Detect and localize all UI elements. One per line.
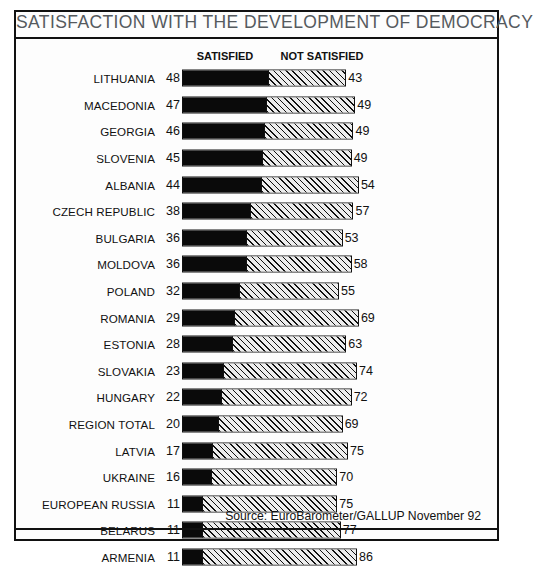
category-label: REGION TOTAL	[10, 418, 155, 431]
not-satisfied-value: 77	[343, 523, 357, 537]
chart-row: SLOVENIA4549	[0, 145, 513, 172]
not-satisfied-value: 63	[348, 337, 362, 351]
chart-row: ESTONIA2863	[0, 331, 513, 358]
bar-segment-satisfied	[183, 443, 213, 458]
page-title: SATISFACTION WITH THE DEVELOPMENT OF DEM…	[16, 12, 497, 33]
bar-segment-not-satisfied	[251, 204, 353, 219]
bar-segment-not-satisfied	[224, 363, 356, 378]
category-label: ARMENIA	[10, 550, 155, 563]
bar-segment-satisfied	[183, 177, 262, 192]
category-label: HUNGARY	[10, 391, 155, 404]
category-label: LATVIA	[10, 444, 155, 457]
chart-row: LATVIA1775	[0, 437, 513, 464]
category-label: GEORGIA	[10, 125, 155, 138]
not-satisfied-value: 54	[361, 178, 375, 192]
satisfied-value: 47	[154, 98, 180, 112]
bar-segment-not-satisfied	[213, 443, 347, 458]
satisfied-value: 17	[154, 444, 180, 458]
stacked-bar	[182, 522, 341, 539]
category-label: CZECH REPUBLIC	[10, 205, 155, 218]
legend-not-satisfied-label: NOT SATISFIED	[268, 50, 376, 62]
stacked-bar	[182, 548, 357, 565]
stacked-bar	[182, 96, 355, 113]
bar-segment-not-satisfied	[235, 310, 358, 325]
bar-segment-not-satisfied	[247, 230, 341, 245]
category-label: ROMANIA	[10, 311, 155, 324]
source-divider	[16, 528, 497, 530]
bar-segment-not-satisfied	[240, 284, 338, 299]
not-satisfied-value: 74	[359, 364, 373, 378]
bar-segment-not-satisfied	[203, 549, 356, 564]
chart-row: BULGARIA3653	[0, 225, 513, 252]
not-satisfied-value: 72	[354, 390, 368, 404]
bar-segment-satisfied	[183, 470, 212, 485]
bar-segment-not-satisfied	[262, 177, 358, 192]
bar-segment-not-satisfied	[265, 124, 352, 139]
not-satisfied-value: 75	[350, 444, 364, 458]
stacked-bar	[182, 416, 343, 433]
satisfied-value: 29	[154, 311, 180, 325]
category-label: ALBANIA	[10, 178, 155, 191]
bar-segment-not-satisfied	[247, 257, 350, 272]
not-satisfied-value: 58	[354, 257, 368, 271]
chart-row: UKRAINE1670	[0, 464, 513, 491]
stacked-bar	[182, 229, 343, 246]
chart-row: MACEDONIA4749	[0, 92, 513, 119]
bar-segment-not-satisfied	[219, 417, 342, 432]
satisfied-value: 36	[154, 257, 180, 271]
not-satisfied-value: 55	[341, 284, 355, 298]
bar-segment-satisfied	[183, 363, 224, 378]
stacked-bar	[182, 150, 352, 167]
stacked-bar	[182, 389, 352, 406]
bar-segment-not-satisfied	[212, 470, 337, 485]
bar-segment-satisfied	[183, 284, 240, 299]
satisfied-value: 38	[154, 204, 180, 218]
bar-segment-satisfied	[183, 417, 219, 432]
chart-row: POLAND3255	[0, 278, 513, 305]
chart-row: HUNGARY2272	[0, 384, 513, 411]
category-label: BELARUS	[10, 524, 155, 537]
bar-segment-satisfied	[183, 97, 267, 112]
satisfied-value: 22	[154, 390, 180, 404]
satisfied-value: 44	[154, 178, 180, 192]
satisfied-value: 45	[154, 151, 180, 165]
not-satisfied-value: 49	[357, 98, 371, 112]
bar-segment-satisfied	[183, 390, 222, 405]
stacked-bar	[182, 309, 359, 326]
category-label: SLOVAKIA	[10, 364, 155, 377]
bar-segment-not-satisfied	[263, 151, 350, 166]
chart-row: ALBANIA4454	[0, 171, 513, 198]
chart-row: SLOVAKIA2374	[0, 358, 513, 385]
satisfied-value: 32	[154, 284, 180, 298]
chart-rows: LITHUANIA4843MACEDONIA4749GEORGIA4649SLO…	[0, 65, 513, 570]
category-label: POLAND	[10, 285, 155, 298]
category-label: LITHUANIA	[10, 72, 155, 85]
satisfied-value: 28	[154, 337, 180, 351]
bar-segment-not-satisfied	[269, 71, 346, 86]
stacked-bar	[182, 176, 359, 193]
category-label: MOLDOVA	[10, 258, 155, 271]
bar-segment-satisfied	[183, 523, 203, 538]
bar-segment-satisfied	[183, 310, 235, 325]
chart-row: MOLDOVA3658	[0, 251, 513, 278]
bar-segment-not-satisfied	[267, 97, 354, 112]
not-satisfied-value: 49	[354, 151, 368, 165]
chart-row: REGION TOTAL2069	[0, 411, 513, 438]
satisfied-value: 36	[154, 231, 180, 245]
bar-segment-satisfied	[183, 230, 247, 245]
bar-segment-satisfied	[183, 151, 263, 166]
bar-segment-not-satisfied	[203, 523, 340, 538]
category-label: BULGARIA	[10, 231, 155, 244]
not-satisfied-value: 53	[345, 231, 359, 245]
satisfied-value: 11	[154, 550, 180, 564]
not-satisfied-value: 69	[345, 417, 359, 431]
chart-row: LITHUANIA4843	[0, 65, 513, 92]
satisfied-value: 46	[154, 124, 180, 138]
stacked-bar	[182, 203, 353, 220]
category-label: UKRAINE	[10, 471, 155, 484]
not-satisfied-value: 86	[359, 550, 373, 564]
not-satisfied-value: 69	[361, 311, 375, 325]
source-note: Source: EuroBarometer/GALLUP November 92	[16, 509, 481, 523]
legend-satisfied-label: SATISFIED	[175, 50, 275, 62]
